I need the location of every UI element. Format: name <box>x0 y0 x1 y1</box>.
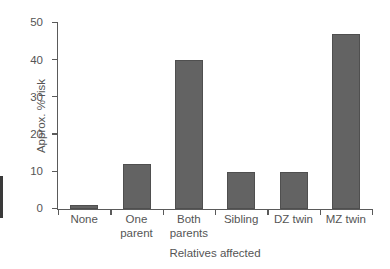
y-axis-tick-label: 0 <box>37 202 43 214</box>
y-axis-tick-label: 50 <box>30 16 43 28</box>
x-axis-label-line: None <box>58 212 110 226</box>
x-axis-label-none: None <box>58 212 110 226</box>
y-axis-tick-label: 10 <box>30 165 43 177</box>
bar-none <box>70 205 98 209</box>
y-axis-tick-label: 30 <box>30 91 43 103</box>
bar-both-parents <box>175 60 203 209</box>
x-axis-label-line: Both <box>163 212 215 226</box>
x-axis-label-line: parents <box>163 226 215 240</box>
y-axis-tick: 40 <box>52 59 58 60</box>
y-axis-tick: 50 <box>52 22 58 23</box>
bar-sibling <box>227 172 255 209</box>
y-axis-tick-label: 40 <box>30 54 43 66</box>
x-axis-tick <box>372 209 373 215</box>
x-axis-label-mz-twin: MZ twin <box>320 212 372 226</box>
plot-area: 01020304050 <box>58 23 372 209</box>
x-axis-label-line: MZ twin <box>320 212 372 226</box>
x-axis-label-line: parent <box>110 226 162 240</box>
y-axis-title-container: Approx. % risk <box>22 23 38 209</box>
x-axis-label-both-parents: Bothparents <box>163 212 215 240</box>
page-edge-artifact <box>0 176 3 218</box>
x-axis-label-line: DZ twin <box>267 212 319 226</box>
y-axis-tick-label: 20 <box>30 128 43 140</box>
y-axis-tick: 10 <box>52 171 58 172</box>
x-axis-label-one-parent: Oneparent <box>110 212 162 240</box>
bar-chart-figure: Approx. % risk 01020304050 NoneOneparent… <box>0 0 390 269</box>
y-axis-tick: 30 <box>52 96 58 97</box>
bar-mz-twin <box>332 34 360 209</box>
y-axis-tick: 20 <box>52 133 58 134</box>
x-axis-title: Relatives affected <box>58 247 372 259</box>
bar-one-parent <box>123 164 151 209</box>
x-axis-label-dz-twin: DZ twin <box>267 212 319 226</box>
x-axis-label-sibling: Sibling <box>215 212 267 226</box>
bar-dz-twin <box>280 172 308 209</box>
x-axis-label-line: One <box>110 212 162 226</box>
x-axis-label-line: Sibling <box>215 212 267 226</box>
